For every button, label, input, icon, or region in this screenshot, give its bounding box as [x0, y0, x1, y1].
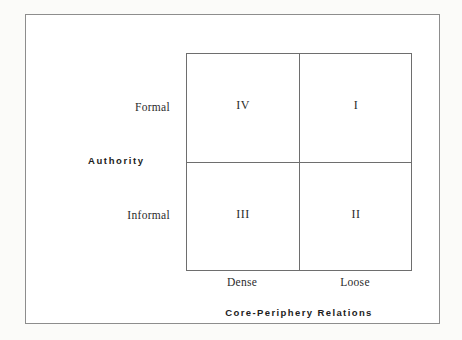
x-axis-tick-dense: Dense	[186, 276, 298, 288]
quadrant-formal-dense: IV	[187, 54, 299, 162]
x-axis-tick-loose: Loose	[299, 276, 411, 288]
quadrant-label-iv: IV	[236, 98, 250, 113]
x-axis-title: Core-Periphery Relations	[186, 307, 412, 318]
y-axis-tick-informal: Informal	[78, 209, 170, 221]
quadrant-diagram: IV I III II Formal Informal Authority De…	[0, 0, 462, 340]
quadrant-informal-dense: III	[187, 163, 299, 271]
quadrant-informal-loose: II	[300, 163, 412, 271]
quadrant-label-ii: II	[352, 207, 361, 222]
figure-frame: IV I III II Formal Informal Authority De…	[25, 14, 440, 324]
quadrant-label-i: I	[354, 98, 359, 113]
y-axis-tick-formal: Formal	[78, 101, 170, 113]
y-axis-title: Authority	[88, 155, 145, 166]
quadrant-label-iii: III	[236, 207, 250, 222]
quadrant-formal-loose: I	[300, 54, 412, 162]
matrix-grid: IV I III II	[186, 53, 412, 271]
